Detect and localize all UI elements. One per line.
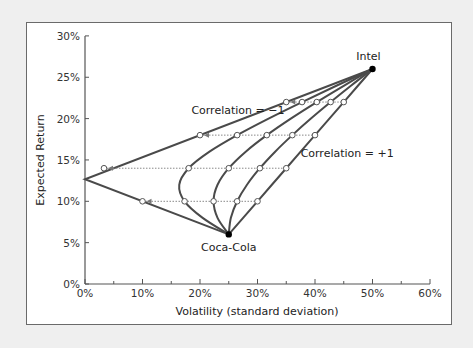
portfolio-point bbox=[186, 165, 192, 171]
x-tick-label: 40% bbox=[303, 287, 326, 299]
portfolio-point bbox=[255, 199, 261, 205]
x-tick-label: 10% bbox=[131, 287, 154, 299]
portfolio-point bbox=[140, 199, 146, 205]
correlation-annotation: Correlation = −1 bbox=[191, 104, 284, 117]
x-axis-title: Volatility (standard deviation) bbox=[176, 305, 339, 318]
portfolio-point bbox=[182, 199, 188, 205]
y-tick-label: 30% bbox=[57, 30, 80, 42]
portfolio-point bbox=[234, 132, 240, 138]
portfolio-point bbox=[290, 132, 296, 138]
asset-label: Coca-Cola bbox=[201, 241, 256, 254]
portfolio-point bbox=[197, 132, 203, 138]
portfolio-point bbox=[257, 165, 263, 171]
portfolio-point bbox=[101, 165, 107, 171]
y-tick-label: 15% bbox=[57, 154, 80, 166]
portfolio-point bbox=[314, 99, 320, 105]
portfolio-point bbox=[264, 132, 270, 138]
y-tick-label: 5% bbox=[63, 237, 80, 249]
x-tick-label: 60% bbox=[418, 287, 441, 299]
asset-dot bbox=[369, 66, 375, 72]
y-tick-label: 20% bbox=[57, 113, 80, 125]
y-tick-label: 0% bbox=[63, 278, 80, 290]
portfolio-point bbox=[328, 99, 334, 105]
portfolio-point bbox=[226, 165, 232, 171]
asset-dot bbox=[226, 231, 232, 237]
portfolio-point bbox=[312, 132, 318, 138]
portfolio-point bbox=[211, 199, 217, 205]
x-tick-label: 50% bbox=[361, 287, 384, 299]
y-tick-label: 10% bbox=[57, 195, 80, 207]
ticks: 0%10%20%30%40%50%60%0%5%10%15%20%25%30% bbox=[57, 30, 442, 299]
y-axis-title: Expected Return bbox=[34, 114, 47, 205]
x-tick-label: 20% bbox=[188, 287, 211, 299]
x-tick-label: 30% bbox=[246, 287, 269, 299]
portfolio-point bbox=[283, 165, 289, 171]
portfolio-point bbox=[341, 99, 347, 105]
portfolio-point bbox=[299, 99, 305, 105]
correlation-annotation: Correlation = +1 bbox=[301, 147, 394, 160]
y-tick-label: 25% bbox=[57, 71, 80, 83]
asset-label: Intel bbox=[356, 50, 380, 63]
efficient-frontier-chart: 0%10%20%30%40%50%60%0%5%10%15%20%25%30% … bbox=[0, 0, 473, 348]
portfolio-point bbox=[234, 199, 240, 205]
